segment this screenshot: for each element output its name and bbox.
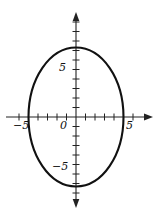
- y-axis-label-positive-five: 5: [59, 62, 66, 73]
- coordinate-plot: [0, 0, 159, 212]
- x-axis-label-positive-five: 5: [126, 120, 133, 131]
- y-axis-arrowhead-top: [73, 12, 80, 21]
- y-axis-label-negative-five: −5: [52, 161, 68, 172]
- origin-label: 0: [60, 120, 67, 131]
- graph-figure: −5 5 5 −5 0: [0, 0, 159, 212]
- x-axis-arrowhead: [144, 114, 153, 121]
- x-axis-label-negative-five: −5: [13, 120, 29, 131]
- y-axis-arrowhead-bottom: [73, 199, 80, 208]
